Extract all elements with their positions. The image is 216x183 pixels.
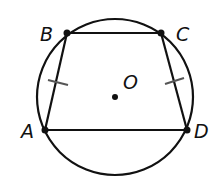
label-o: O [123, 71, 138, 93]
label-b: B [40, 23, 53, 45]
congruence-tick-ab [48, 80, 68, 85]
label-d: D [194, 120, 209, 142]
vertex-d-dot [184, 127, 191, 134]
vertex-a-dot [42, 127, 49, 134]
vertex-b-dot [64, 30, 71, 37]
label-c: C [176, 23, 190, 45]
label-a: A [19, 120, 34, 142]
geometry-diagram: B C A D O [0, 0, 216, 183]
center-o-dot [112, 94, 118, 100]
vertex-c-dot [158, 30, 165, 37]
